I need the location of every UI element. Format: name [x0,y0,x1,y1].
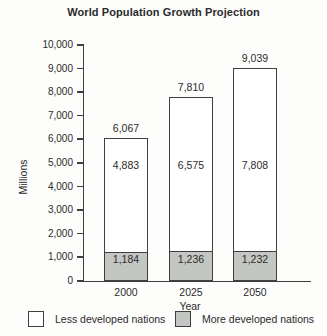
y-tick-label-3,000: 3,000 [22,204,73,216]
y-tick-label-7,000: 7,000 [22,110,73,122]
bar-2025-total-label: 7,810 [159,81,223,93]
bar-2050-total-label: 9,039 [223,52,287,64]
y-tick-mark-8,000 [77,91,84,93]
chart-title: World Population Growth Projection [0,6,327,18]
y-tick-label-10,000: 10,000 [22,39,73,51]
y-tick-label-5,000: 5,000 [22,157,73,169]
y-tick-label-9,000: 9,000 [22,63,73,75]
bar-2050-less-developed-value: 7,808 [233,159,277,171]
y-tick-mark-2,000 [77,233,84,235]
y-tick-mark-1,000 [77,256,84,258]
y-tick-mark-10,000 [77,44,84,46]
x-category-label-2000: 2000 [94,286,158,298]
bar-2050 [233,68,277,281]
legend-label-more-developed-nations: More developed nations [202,312,314,326]
y-tick-label-2,000: 2,000 [22,228,73,240]
bar-2025-less-developed-value: 6,575 [169,159,213,171]
bar-2050-more-developed-value: 1,232 [233,253,277,265]
x-category-label-2025: 2025 [159,286,223,298]
y-tick-mark-7,000 [77,115,84,117]
legend-swatch-less-developed-nations [28,311,44,327]
bar-2025-more-developed-value: 1,236 [169,253,213,265]
y-tick-mark-9,000 [77,68,84,70]
legend-item-more-developed-nations: More developed nations [175,311,314,327]
y-tick-label-0: 0 [22,275,73,287]
y-tick-mark-3,000 [77,209,84,211]
x-category-label-2050: 2050 [223,286,287,298]
y-tick-mark-0 [77,280,84,282]
plot-area: 01,0002,0003,0004,0005,0006,0007,0008,00… [83,45,311,282]
legend-label-less-developed-nations: Less developed nations [55,312,165,326]
y-tick-label-8,000: 8,000 [22,86,73,98]
y-tick-label-6,000: 6,000 [22,133,73,145]
population-growth-figure: World Population Growth Projection Milli… [0,0,327,336]
y-tick-mark-6,000 [77,138,84,140]
y-tick-label-4,000: 4,000 [22,181,73,193]
y-tick-mark-5,000 [77,162,84,164]
bar-2000-more-developed-value: 1,184 [104,253,148,265]
bar-2000-total-label: 6,067 [94,122,158,134]
y-tick-label-1,000: 1,000 [22,251,73,263]
y-tick-mark-4,000 [77,186,84,188]
legend-swatch-more-developed-nations [175,311,191,327]
legend-item-less-developed-nations: Less developed nations [28,311,165,327]
bar-2000-less-developed-value: 4,883 [104,159,148,171]
